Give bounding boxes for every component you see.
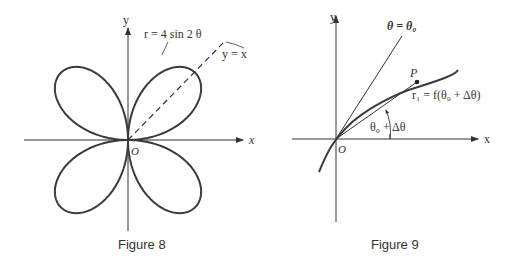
y-axis-label: y [123,13,129,27]
point-p [415,80,420,85]
origin-label: O [338,143,346,155]
x-axis-label: x [484,132,490,146]
ray-label: θ = θ₀ [387,19,416,33]
figure-9: y x O θ = θ₀ P r₁ = f(θ₀ + Δθ) θ₀ + Δθ F… [292,10,490,252]
figures-canvas: y x O r = 4 sin 2 θ y = x Figure 8 y x O… [0,0,520,261]
radius-label: r₁ = f(θ₀ + Δθ) [412,88,480,102]
line-label: y = x [222,47,247,61]
point-label: P [409,66,418,80]
origin-label: O [131,145,139,157]
figure-9-caption: Figure 9 [371,237,419,252]
x-axis-label: x [248,133,255,147]
equation-pointer [162,42,168,55]
equation-label: r = 4 sin 2 θ [144,27,202,41]
y-axis-label: y [330,10,336,24]
figure-8-caption: Figure 8 [118,237,166,252]
figure-8: y x O r = 4 sin 2 θ y = x Figure 8 [24,13,255,252]
angle-label: θ₀ + Δθ [370,120,406,134]
